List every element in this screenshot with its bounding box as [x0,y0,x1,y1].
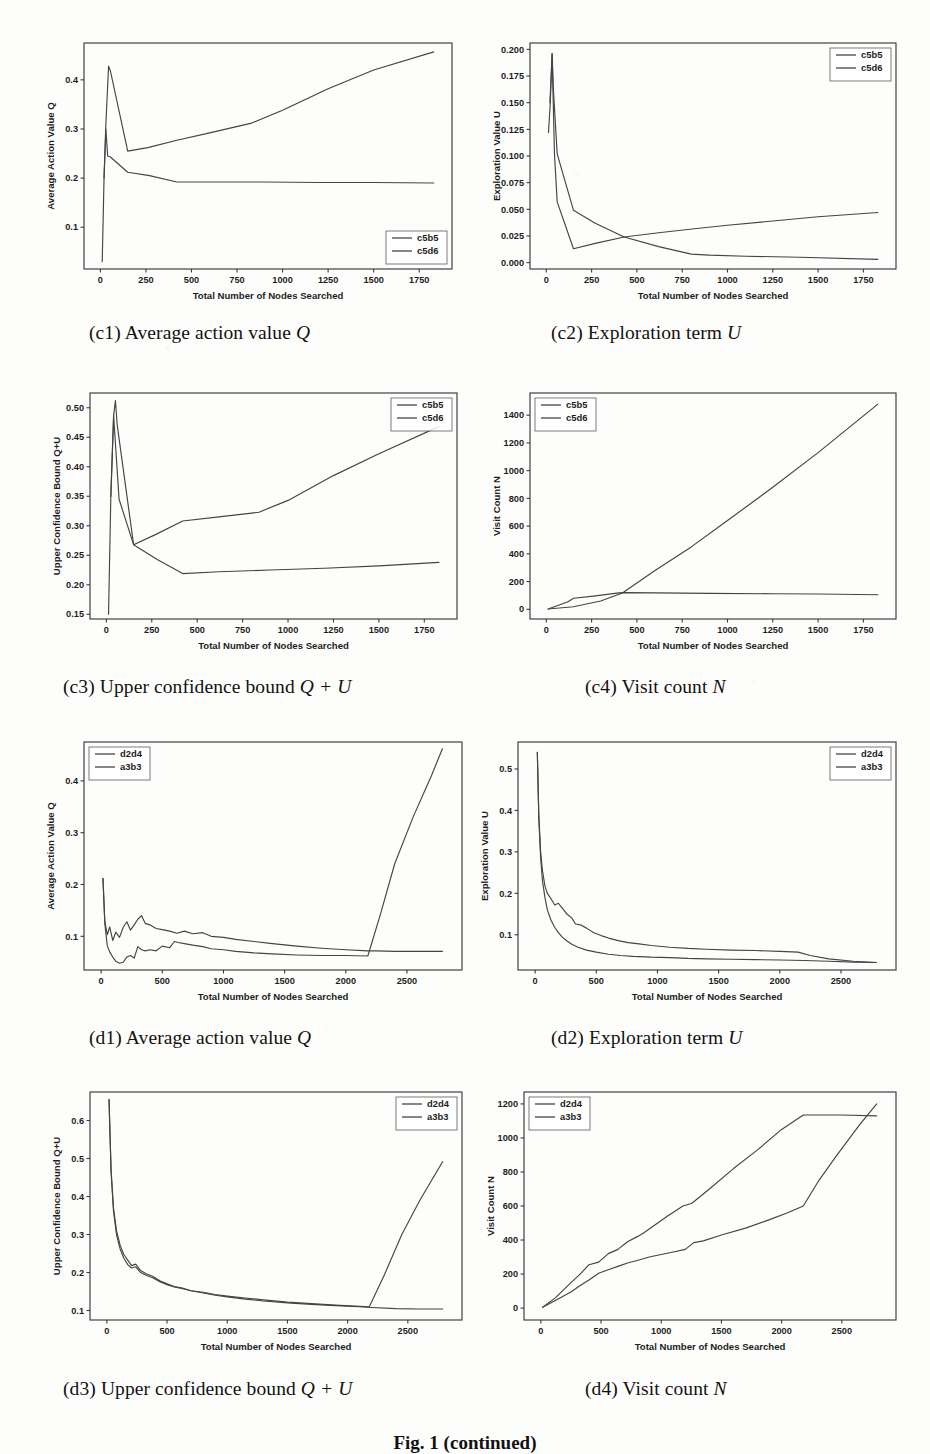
caption-c1-prefix: (c1) [89,322,121,343]
plot-d1: 050010001500200025000.10.20.30.4Total Nu… [44,728,474,1018]
legend-label-a3b3: a3b3 [427,1111,448,1122]
svg-text:0.40: 0.40 [66,462,84,472]
svg-text:1200: 1200 [504,438,524,448]
svg-text:Average Action Value Q: Average Action Value Q [45,102,56,210]
svg-text:0: 0 [533,976,538,986]
svg-text:0: 0 [99,976,104,986]
svg-text:250: 250 [144,625,159,635]
caption-c2-symbol: U [727,322,741,343]
svg-text:0.4: 0.4 [65,75,79,85]
svg-text:500: 500 [589,976,604,986]
svg-text:0.1: 0.1 [65,222,78,232]
svg-text:1000: 1000 [717,275,737,285]
plot-c3: 025050075010001250150017500.150.200.250.… [44,380,469,665]
svg-text:0.50: 0.50 [66,403,84,413]
svg-text:0.4: 0.4 [71,1192,85,1202]
series-c5d6 [104,129,434,183]
caption-d4-text: Visit count [623,1378,709,1399]
legend-label-d2d4: d2d4 [861,748,884,759]
legend-label-a3b3: a3b3 [120,761,141,772]
svg-text:0: 0 [513,1303,518,1313]
panel-c1: 025050075010001250150017500.10.20.30.4To… [44,30,464,315]
legend-label-c5d6: c5d6 [417,245,438,256]
legend-c1: c5b5c5d6 [386,231,447,264]
svg-text:0: 0 [544,625,549,635]
caption-c2: (c2) Exploration term U [551,322,741,344]
legend-d1: d2d4a3b3 [89,747,150,780]
series-a3b3 [537,752,876,962]
svg-text:2000: 2000 [336,976,356,986]
series-c5d6 [548,593,878,609]
svg-text:1500: 1500 [274,976,294,986]
svg-text:1200: 1200 [498,1099,518,1109]
svg-text:0.1: 0.1 [71,1306,84,1316]
series-d2d4 [537,752,876,962]
svg-text:1750: 1750 [853,625,873,635]
series-c5b5 [548,404,878,609]
svg-text:750: 750 [675,625,690,635]
series-a3b3 [543,1104,877,1307]
panel-c3: 025050075010001250150017500.150.200.250.… [44,380,469,665]
svg-text:0.25: 0.25 [66,550,84,560]
svg-text:1500: 1500 [363,275,383,285]
svg-text:600: 600 [503,1201,518,1211]
svg-text:2000: 2000 [771,1326,791,1336]
svg-text:2000: 2000 [337,1326,357,1336]
svg-text:0.175: 0.175 [501,71,524,81]
legend-label-c5b5: c5b5 [417,232,438,243]
svg-text:800: 800 [509,494,524,504]
svg-text:500: 500 [629,275,644,285]
series-a3b3 [109,1100,443,1307]
svg-text:1000: 1000 [272,275,292,285]
svg-text:0.150: 0.150 [501,98,524,108]
svg-text:1000: 1000 [647,976,667,986]
caption-d4-prefix: (d4) [585,1378,618,1399]
caption-c3-text: Upper confidence bound [100,676,295,697]
svg-text:1000: 1000 [717,625,737,635]
svg-text:0.3: 0.3 [65,124,78,134]
caption-d1-text: Average action value [126,1027,292,1048]
svg-text:400: 400 [509,549,524,559]
caption-c3: (c3) Upper confidence bound Q + U [63,676,351,698]
svg-text:Visit Count N: Visit Count N [491,476,502,536]
svg-text:200: 200 [509,577,524,587]
svg-text:0.3: 0.3 [65,828,78,838]
legend-label-c5d6: c5d6 [566,412,587,423]
svg-text:1500: 1500 [711,1326,731,1336]
svg-text:1250: 1250 [323,625,343,635]
series-a3b3 [103,749,442,964]
svg-text:1000: 1000 [498,1133,518,1143]
caption-c1-text: Average action value [125,322,291,343]
svg-text:1250: 1250 [763,625,783,635]
panel-c4: 0250500750100012501500175002004006008001… [478,380,908,665]
svg-text:0.2: 0.2 [499,889,512,899]
svg-text:500: 500 [190,625,205,635]
svg-text:Total Number of Nodes Searched: Total Number of Nodes Searched [638,290,789,301]
svg-text:1000: 1000 [278,625,298,635]
svg-text:0.5: 0.5 [499,764,512,774]
svg-text:2500: 2500 [831,976,851,986]
legend-label-d2d4: d2d4 [120,748,143,759]
plot-c1: 025050075010001250150017500.10.20.30.4To… [44,30,464,315]
legend-label-c5b5: c5b5 [422,399,443,410]
series-c5b5 [109,401,439,615]
legend-c4: c5b5c5d6 [535,398,596,431]
caption-d4-symbol: N [714,1378,727,1399]
svg-text:500: 500 [629,625,644,635]
svg-text:Total Number of Nodes Searched: Total Number of Nodes Searched [201,1341,352,1352]
caption-c1-symbol: Q [296,322,310,343]
caption-c4-symbol: N [712,676,725,697]
series-c5d6 [111,415,439,573]
caption-c3-symbol: Q + U [300,676,352,697]
plot-c2: 025050075010001250150017500.0000.0250.05… [478,30,908,315]
svg-text:1500: 1500 [808,275,828,285]
legend-c2: c5b5c5d6 [830,48,891,81]
svg-text:Upper Confidence Bound Q+U: Upper Confidence Bound Q+U [51,437,62,575]
svg-text:1500: 1500 [708,976,728,986]
svg-text:1000: 1000 [217,1326,237,1336]
svg-text:0.100: 0.100 [501,151,524,161]
legend-label-a3b3: a3b3 [861,761,882,772]
legend-label-d2d4: d2d4 [427,1098,450,1109]
svg-text:0.15: 0.15 [66,609,84,619]
